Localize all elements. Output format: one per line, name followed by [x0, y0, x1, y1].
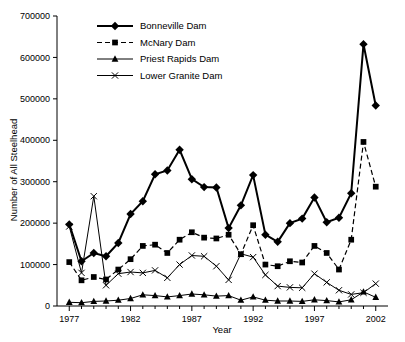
x-axis-title: Year [212, 324, 231, 335]
marker-triangle [66, 299, 73, 305]
marker-square [140, 243, 146, 249]
marker-cross [213, 263, 219, 269]
marker-square [312, 243, 318, 249]
line-chart: 0100000200000300000400000500000600000700… [0, 0, 405, 342]
marker-square [324, 250, 330, 256]
marker-cross [226, 277, 232, 283]
chart-container: 0100000200000300000400000500000600000700… [0, 0, 405, 342]
y-axis-title: Number of All Steelhead [8, 119, 19, 221]
series-priest-rapids-dam [66, 288, 379, 305]
legend-item-priest-rapids-dam: Priest Rapids Dam [97, 53, 219, 64]
marker-square [299, 260, 305, 266]
marker-square [214, 236, 220, 242]
legend-label: Priest Rapids Dam [140, 53, 219, 64]
marker-cross [373, 281, 379, 287]
legend-item-bonneville-dam: Bonneville Dam [97, 20, 207, 31]
marker-diamond [261, 231, 269, 239]
marker-square [152, 242, 158, 248]
data-series [65, 40, 380, 305]
series-line [69, 292, 375, 303]
marker-square [373, 184, 379, 190]
y-tick-label: 100000 [20, 260, 50, 270]
y-tick-label: 600000 [20, 53, 50, 63]
marker-triangle [188, 290, 195, 296]
marker-diamond [372, 101, 380, 109]
legend-label: McNary Dam [140, 37, 196, 48]
legend-item-mcnary-dam: McNary Dam [97, 37, 196, 48]
y-tick-label: 700000 [20, 11, 50, 21]
marker-square [79, 277, 85, 283]
marker-cross [311, 271, 317, 277]
legend-label: Lower Granite Dam [140, 70, 222, 81]
marker-square [164, 250, 170, 256]
marker-triangle [225, 292, 232, 298]
marker-cross [176, 261, 182, 267]
marker-diamond [249, 171, 257, 179]
marker-square [201, 235, 207, 241]
marker-cross [164, 275, 170, 281]
y-tick-label: 0 [45, 301, 50, 311]
marker-diamond [212, 183, 220, 191]
legend-label: Bonneville Dam [140, 20, 207, 31]
marker-diamond [323, 218, 331, 226]
y-tick-label: 200000 [20, 218, 50, 228]
y-tick-label: 300000 [20, 177, 50, 187]
x-tick-label: 1997 [304, 314, 324, 324]
marker-square [66, 259, 72, 265]
x-tick-label: 1982 [121, 314, 141, 324]
marker-square [361, 139, 367, 145]
marker-diamond [224, 224, 232, 232]
marker-triangle [311, 296, 318, 302]
marker-triangle [250, 293, 257, 299]
y-tick-label: 400000 [20, 135, 50, 145]
x-tick-label: 2002 [366, 314, 386, 324]
marker-cross [250, 254, 256, 260]
y-tick-label: 500000 [20, 94, 50, 104]
marker-diamond [151, 170, 159, 178]
marker-square [275, 263, 281, 269]
x-tick-label: 1992 [243, 314, 263, 324]
marker-diamond [175, 146, 183, 154]
series-bonneville-dam [65, 40, 380, 265]
legend-item-lower-granite-dam: Lower Granite Dam [97, 70, 222, 81]
marker-diamond [335, 214, 343, 222]
marker-square [263, 262, 269, 268]
marker-square [112, 40, 118, 46]
marker-square [287, 258, 293, 264]
marker-square [177, 237, 183, 243]
marker-triangle [112, 55, 119, 61]
marker-diamond [163, 166, 171, 174]
marker-cross [262, 272, 268, 278]
marker-diamond [310, 193, 318, 201]
marker-square [103, 277, 109, 283]
marker-triangle [139, 291, 146, 297]
marker-square [250, 222, 256, 228]
marker-diamond [111, 22, 119, 30]
marker-square [128, 256, 134, 262]
marker-diamond [359, 40, 367, 48]
marker-cross [324, 279, 330, 285]
x-tick-label: 1987 [182, 314, 202, 324]
marker-cross [336, 287, 342, 293]
marker-diamond [237, 201, 245, 209]
series-line [69, 44, 375, 261]
marker-diamond [298, 214, 306, 222]
marker-square [336, 267, 342, 273]
marker-square [189, 229, 195, 235]
marker-square [348, 237, 354, 243]
x-tick-label: 1977 [59, 314, 79, 324]
marker-diamond [347, 189, 355, 197]
marker-square [226, 232, 232, 238]
marker-square [91, 274, 97, 280]
chart-legend: Bonneville DamMcNary DamPriest Rapids Da… [97, 20, 222, 81]
